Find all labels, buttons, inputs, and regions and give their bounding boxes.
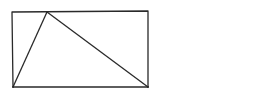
- vertex-apex: [46, 11, 48, 13]
- vertex-bottom-left: [12, 86, 14, 88]
- vertex-bottom-right: [147, 86, 149, 88]
- triangle-left-side: [13, 12, 47, 87]
- rectangle: [12, 11, 148, 87]
- triangle-right-side: [47, 12, 148, 87]
- geometry-diagram: [0, 0, 253, 95]
